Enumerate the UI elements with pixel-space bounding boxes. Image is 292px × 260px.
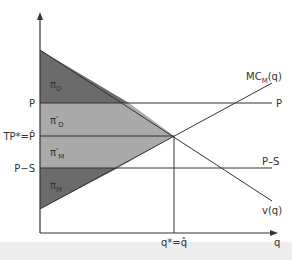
label-right-p-minus-s: P–S [262, 156, 279, 167]
label-x-axis: q [274, 237, 280, 248]
y-axis-arrow-icon [37, 12, 43, 20]
region-pi-d-prime [40, 103, 174, 136]
label-mc-curve: MCM(q) [246, 71, 282, 85]
label-tp-star: TP*=P̂ [2, 130, 35, 142]
region-pi-m-prime [40, 136, 174, 168]
label-p: P [29, 98, 35, 109]
label-p-minus-s: P−S [14, 163, 35, 174]
label-right-p: P [276, 98, 282, 109]
label-v-curve: v(q) [262, 205, 282, 216]
label-q-star: q*=q̂ [161, 237, 187, 248]
profit-diagram: P TP*=P̂ P−S MCM(q) P P–S v(q) q q*=q̂ π… [0, 0, 292, 260]
region-pi-d [40, 50, 129, 103]
x-axis-arrow-icon [270, 230, 278, 236]
